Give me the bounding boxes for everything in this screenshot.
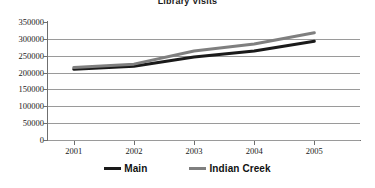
x-axis-tick (134, 141, 135, 145)
gridline (47, 123, 360, 124)
y-axis-tick (43, 89, 48, 90)
chart-legend: Main Indian Creek (0, 163, 375, 174)
y-axis-tick-label: 150000 (0, 85, 44, 94)
gridline (47, 106, 360, 107)
x-axis-tick (194, 141, 195, 145)
x-axis-tick-label: 2003 (171, 147, 217, 156)
y-axis-tick-label: 0 (0, 136, 44, 145)
x-axis-tick-label: 2001 (51, 147, 97, 156)
legend-label-main: Main (124, 163, 147, 174)
plot-area (47, 22, 360, 140)
legend-swatch-indian-creek (189, 167, 206, 170)
y-axis-tick (43, 22, 48, 23)
legend-swatch-main (104, 167, 121, 170)
gridline (47, 89, 360, 90)
y-axis-labels: 3500003000002500002000001500001000005000… (0, 0, 44, 188)
x-axis-tick-label: 2002 (111, 147, 157, 156)
y-axis-tick (43, 39, 48, 40)
x-axis-tick-label: 2004 (231, 147, 277, 156)
y-axis-tick-label: 100000 (0, 102, 44, 111)
y-axis-tick-label: 300000 (0, 35, 44, 44)
legend-item-main[interactable]: Main (104, 163, 147, 174)
chart-title: Library Visits (0, 0, 375, 7)
y-axis-tick (43, 140, 48, 141)
gridline (47, 56, 360, 57)
y-axis-tick-label: 250000 (0, 52, 44, 61)
y-axis-tick (43, 56, 48, 57)
y-axis-tick-label: 200000 (0, 69, 44, 78)
x-axis-tick-label: 2005 (291, 147, 337, 156)
gridline (47, 39, 360, 40)
x-axis-tick (74, 141, 75, 145)
legend-label-indian-creek: Indian Creek (209, 163, 270, 174)
y-axis-tick (43, 73, 48, 74)
y-axis-tick-label: 350000 (0, 18, 44, 27)
legend-item-indian-creek[interactable]: Indian Creek (189, 163, 270, 174)
gridline (47, 73, 360, 74)
y-axis-tick (43, 106, 48, 107)
x-axis-tick (254, 141, 255, 145)
y-axis-tick-label: 50000 (0, 119, 44, 128)
y-axis-tick (43, 123, 48, 124)
x-axis-tick (314, 141, 315, 145)
library-visits-chart: Library Visits 3500003000002500002000001… (0, 0, 375, 188)
